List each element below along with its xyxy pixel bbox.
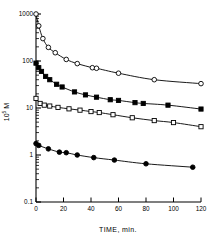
svg-text:105 M: 105 M: [1, 103, 10, 122]
data-point-open-square: [48, 104, 52, 108]
data-point-filled-circle: [190, 165, 195, 170]
series-filled-squares: [34, 61, 203, 111]
data-point-open-circle: [64, 57, 69, 62]
data-point-open-square: [111, 113, 115, 117]
data-point-filled-square: [199, 107, 203, 111]
x-tick-label: 20: [60, 205, 68, 212]
data-point-filled-square: [94, 95, 98, 99]
data-point-filled-circle: [144, 161, 149, 166]
data-point-filled-square: [83, 93, 87, 97]
data-point-filled-circle: [75, 153, 80, 158]
data-point-filled-square: [116, 98, 120, 102]
data-point-filled-square: [133, 101, 137, 105]
data-point-filled-square: [72, 90, 76, 94]
data-point-open-square: [89, 109, 93, 113]
data-point-open-square: [38, 101, 42, 105]
data-point-filled-circle: [46, 147, 51, 152]
y-axis-label: 105 M: [1, 103, 10, 122]
data-point-open-square: [78, 108, 82, 112]
semilog-decay-chart: 0204060801001200.11101001000 TIME, min. …: [0, 0, 210, 237]
data-point-open-circle: [94, 66, 99, 71]
data-point-open-circle: [36, 24, 41, 29]
chart-figure: 0204060801001200.11101001000 TIME, min. …: [0, 0, 210, 237]
data-point-open-circle: [152, 77, 157, 82]
y-tick-label: 1000: [19, 10, 34, 17]
data-point-filled-square: [48, 78, 52, 82]
data-point-filled-circle: [112, 158, 117, 163]
y-tick-label: 0.1: [24, 198, 33, 205]
data-point-open-circle: [75, 61, 80, 66]
x-tick-label: 80: [142, 205, 150, 212]
data-point-filled-square: [44, 74, 48, 78]
series-filled-circles: [34, 141, 195, 169]
data-point-filled-circle: [57, 150, 62, 155]
x-axis-label: TIME, min.: [99, 226, 137, 233]
y-axis-label-unit: M: [3, 103, 10, 111]
data-point-filled-square: [60, 85, 64, 89]
data-point-open-circle: [34, 12, 39, 17]
x-tick-label: 120: [196, 205, 207, 212]
data-point-filled-square: [141, 101, 145, 105]
data-point-open-square: [56, 105, 60, 109]
series-line: [36, 144, 193, 168]
data-point-open-circle: [41, 36, 46, 41]
series-open-circles: [34, 12, 204, 86]
y-tick-label: 100: [22, 57, 33, 64]
data-point-open-square: [171, 120, 175, 124]
data-point-open-square: [152, 118, 156, 122]
x-tick-label: 0: [34, 205, 38, 212]
y-tick-label: 1: [29, 151, 33, 158]
data-point-open-square: [42, 103, 46, 107]
data-point-filled-circle: [36, 143, 41, 148]
data-point-filled-square: [55, 82, 59, 86]
data-point-filled-square: [166, 103, 170, 107]
data-point-filled-circle: [91, 155, 96, 160]
data-series-layer: [34, 12, 204, 170]
data-point-open-square: [199, 125, 203, 129]
data-point-open-circle: [46, 45, 51, 50]
x-tick-label: 40: [87, 205, 95, 212]
x-tick-label: 100: [168, 205, 179, 212]
data-point-filled-square: [108, 98, 112, 102]
data-point-open-square: [34, 96, 38, 100]
x-tick-label: 60: [115, 205, 123, 212]
data-point-open-square: [130, 116, 134, 120]
y-tick-label: 10: [26, 104, 34, 111]
data-point-open-square: [97, 110, 101, 114]
tick-label-layer: 0204060801001200.11101001000: [19, 10, 207, 212]
data-point-filled-circle: [64, 150, 69, 155]
data-point-open-square: [67, 107, 71, 111]
data-point-filled-square: [39, 69, 43, 73]
data-point-open-circle: [53, 50, 58, 55]
data-point-filled-square: [34, 61, 38, 65]
data-point-open-circle: [199, 81, 204, 86]
y-axis-label-mantissa: 10: [3, 113, 10, 121]
data-point-open-circle: [116, 71, 121, 76]
